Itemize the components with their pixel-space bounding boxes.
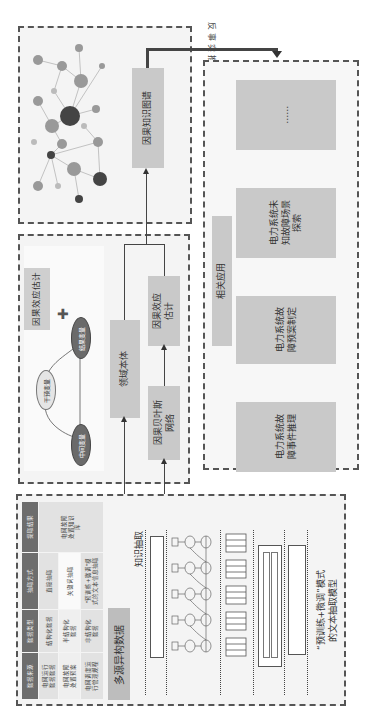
layer-divider (253, 530, 254, 695)
multi-source-data-box: 多源异构数据 (108, 608, 130, 700)
layer-divider (145, 530, 146, 695)
connector (164, 346, 165, 386)
arrowhead (121, 416, 127, 422)
outcome-variable-node: 结果变量 (71, 317, 91, 359)
table-header: 数据类型 (22, 610, 38, 652)
connector (164, 244, 165, 276)
table-cell: 结构化数据 (39, 610, 58, 652)
layer-divider (166, 530, 167, 695)
table-cell: 电网运行 数据数据 (39, 653, 58, 699)
causal-bayes-network-box: 因果贝叶斯 网络 (148, 386, 180, 460)
input-text-box (150, 536, 164, 658)
output-layer-illustration (222, 530, 250, 660)
connector (146, 172, 147, 244)
connector (124, 244, 125, 320)
counterfactual-arrowhead (272, 51, 282, 58)
table-cell: 电网故障 处置知识 库 (39, 502, 103, 552)
intervention-variable-node: 干预变量 (36, 370, 56, 410)
table-header: 抽取方式 (22, 553, 38, 609)
causal-effect-estimate-box: 因果效应 估计 (148, 276, 180, 346)
counterfactual-connector (146, 48, 149, 68)
application-item: …… (236, 80, 336, 150)
table-header: 提取结果 (22, 502, 38, 552)
table-cell: 非结构化 数据 (81, 610, 103, 652)
applications-title-box: 相关应用 (212, 216, 232, 346)
table-cell: 直接抽取 (39, 553, 58, 609)
table-cell: 电网调度运 行管理规程 (81, 653, 103, 699)
table-cell: 半结构化 数据 (59, 610, 80, 652)
table-header: 数据来源 (22, 653, 38, 699)
domain-ontology-box: 领域本体 (110, 320, 140, 418)
lstm-layers-illustration (168, 530, 218, 660)
arrowhead (143, 168, 149, 174)
causal-knowledge-graph-box: 因果知识图谱 (132, 68, 164, 168)
layer-divider (284, 530, 285, 695)
table-cell: "预训练+微调"模 式的文本信息抽取 (81, 553, 103, 609)
table-cell: 关键词抽取 (59, 553, 80, 609)
arrowhead (161, 458, 167, 464)
connector (124, 244, 165, 245)
application-item: 电力系统故 障预案制定 (236, 296, 336, 364)
embedding-block (288, 545, 306, 655)
application-item: 电力系统未 知故障场景 探索 (236, 188, 336, 258)
table-cell: 电网故障 处置预案 (59, 653, 80, 699)
encoder-block (258, 545, 282, 667)
mediator-variable-node: 中间变量 (71, 424, 91, 466)
arrowhead (161, 344, 167, 350)
layer-divider (220, 530, 221, 695)
model-caption: “预训练+微调”模式 的文本抽取模型 (308, 540, 346, 680)
application-item: 电力系统故 障事件推理 (236, 402, 336, 472)
applications-title: 相关应用 (216, 263, 228, 299)
network-graph-illustration (26, 36, 116, 206)
causal-knowledge-graph-label: 因果知识图谱 (142, 91, 154, 145)
